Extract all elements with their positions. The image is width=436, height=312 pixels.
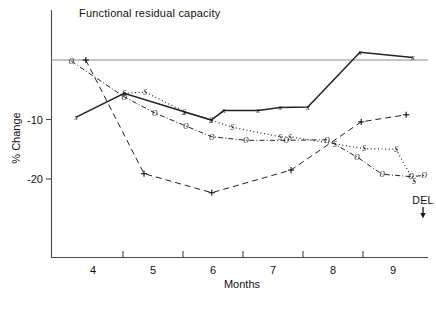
data-point-O: O bbox=[379, 170, 385, 179]
marker-glyph: O bbox=[421, 171, 427, 180]
data-point-x: x bbox=[74, 113, 79, 122]
data-point-O: O bbox=[354, 153, 360, 162]
figure-container: Functional residual capacity % Change Mo… bbox=[0, 0, 436, 312]
x-axis-title: Months bbox=[224, 278, 261, 290]
marker-glyph: x bbox=[410, 53, 415, 62]
x-tick-label: 7 bbox=[270, 264, 276, 276]
marker-glyph: O bbox=[209, 133, 215, 142]
marker-glyph: x bbox=[255, 106, 260, 115]
marker-glyph: O bbox=[243, 136, 249, 145]
chart-title: Functional residual capacity bbox=[79, 7, 221, 19]
data-point-O: O bbox=[183, 122, 189, 131]
data-point-S: S bbox=[230, 123, 234, 132]
data-point-O: O bbox=[69, 57, 75, 66]
data-point-O: O bbox=[243, 136, 249, 145]
y-tick-label: -10 bbox=[27, 114, 43, 126]
data-point-x: x bbox=[278, 103, 283, 112]
marker-glyph: O bbox=[121, 93, 127, 102]
data-point-O: O bbox=[209, 133, 215, 142]
marker-glyph: S bbox=[362, 144, 366, 153]
marker-glyph: O bbox=[379, 170, 385, 179]
marker-glyph: x bbox=[357, 48, 362, 57]
chart-background bbox=[0, 0, 436, 312]
functional-residual-capacity-chart: Functional residual capacity % Change Mo… bbox=[0, 0, 436, 312]
marker-glyph: S bbox=[230, 123, 234, 132]
marker-glyph: O bbox=[183, 122, 189, 131]
figure-caption-strip bbox=[0, 301, 436, 312]
data-point-O: O bbox=[408, 172, 414, 181]
data-point-S: S bbox=[143, 88, 147, 97]
marker-glyph: O bbox=[354, 153, 360, 162]
data-point-x: x bbox=[305, 103, 310, 112]
marker-glyph: O bbox=[69, 57, 75, 66]
data-point-O: O bbox=[283, 136, 289, 145]
data-point-S: S bbox=[182, 108, 186, 117]
data-point-x: x bbox=[221, 106, 226, 115]
marker-glyph: x bbox=[221, 106, 226, 115]
data-point-O: O bbox=[121, 93, 127, 102]
data-point-S: S bbox=[362, 144, 366, 153]
marker-glyph: x bbox=[74, 113, 79, 122]
data-point-S: S bbox=[394, 145, 398, 154]
y-tick-label: -20 bbox=[27, 173, 43, 185]
marker-glyph: x bbox=[278, 103, 283, 112]
data-point-x: x bbox=[357, 48, 362, 57]
data-point-O: O bbox=[421, 171, 427, 180]
x-tick-label: 4 bbox=[90, 264, 96, 276]
marker-glyph: S bbox=[209, 116, 213, 125]
marker-glyph: O bbox=[408, 172, 414, 181]
data-point-x: x bbox=[255, 106, 260, 115]
marker-glyph: O bbox=[324, 136, 330, 145]
marker-glyph: O bbox=[152, 109, 158, 118]
x-tick-label: 9 bbox=[390, 264, 396, 276]
marker-glyph: S bbox=[394, 145, 398, 154]
data-point-x: x bbox=[410, 53, 415, 62]
data-point-O: O bbox=[152, 109, 158, 118]
y-axis-title: % Change bbox=[10, 112, 22, 163]
marker-glyph: S bbox=[143, 88, 147, 97]
marker-glyph: S bbox=[182, 108, 186, 117]
annotation-label: DEL bbox=[412, 194, 433, 206]
x-tick-label: 6 bbox=[210, 264, 216, 276]
x-tick-label: 8 bbox=[330, 264, 336, 276]
data-point-S: S bbox=[209, 116, 213, 125]
marker-glyph: x bbox=[305, 103, 310, 112]
x-tick-label: 5 bbox=[150, 264, 156, 276]
marker-glyph: O bbox=[283, 136, 289, 145]
data-point-O: O bbox=[324, 136, 330, 145]
